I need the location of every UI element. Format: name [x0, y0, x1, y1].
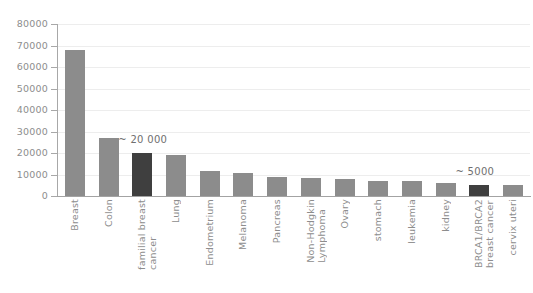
y-tick-label: 80000 — [17, 19, 48, 29]
y-tick-label: 50000 — [17, 84, 48, 94]
bar — [503, 185, 523, 196]
x-tick-label: Ovary — [339, 199, 350, 228]
bar — [65, 50, 85, 196]
x-axis-labels: BreastColonfamilial breast cancerLungEnd… — [58, 199, 530, 293]
x-tick-label: cervix uteri — [507, 199, 518, 255]
y-axis: 8000070000600005000040000300002000010000… — [0, 0, 62, 205]
bar — [436, 183, 456, 196]
y-tick-label: 20000 — [17, 148, 48, 158]
x-tick-label: Non-Hodgkin Lymphoma — [305, 199, 327, 263]
x-axis-line — [57, 196, 531, 197]
y-tick-label: 0 — [42, 191, 48, 201]
bar — [166, 155, 186, 196]
bar — [99, 138, 119, 196]
y-tick-label: 10000 — [17, 170, 48, 180]
y-tick-label: 70000 — [17, 41, 48, 51]
annotation-familial-breast-cancer: ~ 20 000 — [118, 134, 167, 145]
bar — [301, 178, 321, 196]
x-tick-label: Colon — [103, 199, 114, 227]
x-tick-label: Endometrium — [204, 199, 215, 266]
bar — [368, 181, 388, 196]
bar — [233, 173, 253, 196]
x-tick-label: familial breast cancer — [136, 199, 158, 270]
x-tick-label: leukemia — [406, 199, 417, 244]
x-tick-label: stomach — [372, 199, 383, 241]
bar — [267, 177, 287, 196]
x-tick-label: Breast — [69, 199, 80, 231]
x-tick-label: kidney — [440, 199, 451, 232]
x-tick-label: Pancreas — [271, 199, 282, 243]
bar — [469, 185, 489, 196]
bar — [335, 179, 355, 196]
annotation-brca-breast-cancer: ~ 5000 — [455, 166, 494, 177]
bar-chart: 8000070000600005000040000300002000010000… — [0, 0, 533, 293]
bar — [402, 181, 422, 196]
x-tick-label: BRCA1/BRCA2 breast cancer — [473, 199, 495, 268]
bar — [200, 171, 220, 196]
bar — [132, 153, 152, 196]
x-tick-label: Melanoma — [237, 199, 248, 250]
y-tick-label: 40000 — [17, 105, 48, 115]
x-tick-label: Lung — [170, 199, 181, 223]
y-tick-label: 60000 — [17, 62, 48, 72]
y-tick-label: 30000 — [17, 127, 48, 137]
